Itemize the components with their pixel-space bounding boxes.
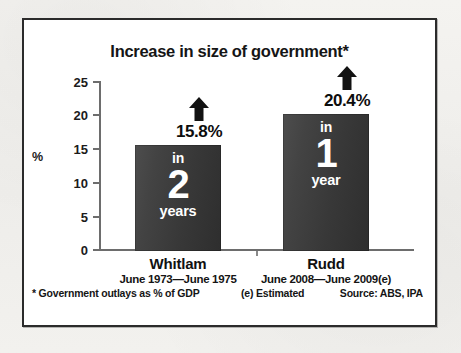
y-tick-mark-20 xyxy=(93,114,99,116)
y-tick-label-15: 15 xyxy=(54,142,88,157)
bar-whitlam-number: 2 xyxy=(135,166,221,203)
y-axis-unit-label: % xyxy=(32,150,43,164)
bar-whitlam-unit: years xyxy=(135,204,221,219)
plot-area: % 25 20 15 10 5 0 15.8% i xyxy=(24,20,435,325)
footnote-estimated: (e) Estimated xyxy=(241,287,304,299)
bar-rudd-number: 1 xyxy=(283,135,369,172)
up-arrow-icon xyxy=(336,66,358,90)
bar-value-label-rudd: 20.4% xyxy=(297,91,397,111)
y-tick-mark-0 xyxy=(93,249,99,251)
y-tick-mark-10 xyxy=(93,182,99,184)
bar-rudd[interactable]: in 1 year xyxy=(283,114,369,251)
y-tick-label-0: 0 xyxy=(54,243,88,258)
y-tick-label-25: 25 xyxy=(54,75,88,90)
y-tick-label-10: 10 xyxy=(54,176,88,191)
bar-whitlam-annotation: in 2 years xyxy=(135,151,221,218)
bar-whitlam[interactable]: in 2 years xyxy=(135,145,221,251)
y-tick-mark-25 xyxy=(93,81,99,83)
category-label-rudd: Rudd June 2008—June 2009(e) xyxy=(236,255,416,285)
bar-value-label-whitlam: 15.8% xyxy=(149,122,249,142)
y-tick-label-5: 5 xyxy=(54,210,88,225)
up-arrow-icon xyxy=(188,97,210,121)
category-name-rudd: Rudd xyxy=(236,255,416,272)
footnote-row: * Government outlays as % of GDP (e) Est… xyxy=(32,287,427,299)
footnote-outlays: * Government outlays as % of GDP xyxy=(32,287,199,299)
y-tick-mark-15 xyxy=(93,148,99,150)
y-tick-mark-5 xyxy=(93,216,99,218)
category-range-rudd: June 2008—June 2009(e) xyxy=(236,273,416,285)
chart-frame: Increase in size of government* % 25 20 … xyxy=(22,18,437,327)
scanned-page: the past and a growing as the in the Inc… xyxy=(0,0,461,353)
bar-rudd-unit: year xyxy=(283,173,369,188)
y-axis-line xyxy=(99,81,101,251)
bar-rudd-annotation: in 1 year xyxy=(283,120,369,187)
footnote-source: Source: ABS, IPA xyxy=(340,287,423,299)
y-tick-label-20: 20 xyxy=(54,108,88,123)
